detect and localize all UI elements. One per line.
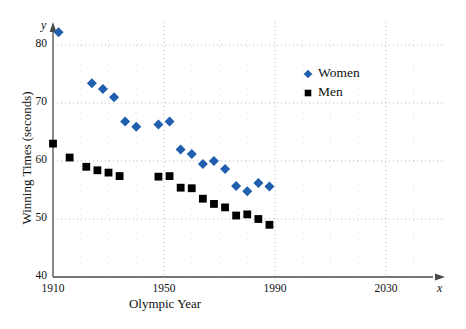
plot-area	[0, 0, 466, 329]
x-tick-label: 1910	[36, 282, 70, 294]
legend-label-women: Women	[318, 65, 360, 81]
data-point-men	[105, 169, 113, 177]
axis-lines	[50, 22, 445, 280]
data-point-men	[266, 221, 274, 229]
data-point-women	[231, 181, 241, 191]
data-point-women	[209, 156, 219, 166]
data-point-women	[109, 92, 119, 102]
x-axis-symbol: x	[437, 281, 442, 296]
data-point-men	[94, 166, 102, 174]
y-tick-label: 70	[27, 95, 47, 107]
data-point-women	[131, 122, 141, 132]
y-tick-label: 80	[27, 37, 47, 49]
data-point-men	[166, 172, 174, 180]
scatter-chart: y x Olympic Year Winning Times (seconds)…	[0, 0, 466, 329]
data-point-men	[199, 195, 207, 203]
data-point-women	[187, 149, 197, 159]
x-tick-label: 1990	[258, 282, 292, 294]
data-point-women	[120, 117, 130, 127]
data-point-men	[66, 154, 74, 162]
x-tick-label: 2030	[369, 282, 403, 294]
legend-label-men: Men	[318, 84, 343, 100]
x-tick-label: 1950	[147, 282, 181, 294]
data-point-men	[82, 163, 90, 171]
data-point-men	[232, 212, 240, 220]
data-point-men	[155, 173, 163, 181]
data-markers	[49, 27, 274, 228]
y-tick-label: 40	[27, 269, 47, 281]
data-point-men	[210, 200, 218, 208]
data-point-women	[153, 119, 163, 129]
data-point-men	[188, 184, 196, 192]
data-point-women	[98, 84, 108, 94]
x-axis-title: Olympic Year	[0, 296, 330, 312]
data-point-men	[221, 204, 229, 212]
legend-marker-square-icon	[305, 90, 312, 97]
y-axis-symbol: y	[41, 18, 46, 33]
data-point-women	[165, 117, 175, 127]
data-point-men	[254, 215, 262, 223]
data-point-men	[116, 172, 124, 180]
data-point-men	[49, 140, 57, 148]
data-point-women	[198, 159, 208, 169]
legend-markers	[304, 70, 313, 97]
y-tick-label: 60	[27, 153, 47, 165]
y-tick-label: 50	[27, 211, 47, 223]
data-point-women	[264, 182, 274, 192]
data-point-women	[242, 186, 252, 196]
data-point-men	[243, 210, 251, 218]
gridlines	[53, 22, 445, 277]
data-point-women	[253, 178, 263, 188]
legend-marker-diamond-icon	[304, 70, 313, 79]
data-point-women	[176, 144, 186, 154]
data-point-women	[220, 164, 230, 174]
data-point-men	[177, 184, 185, 192]
data-point-women	[87, 78, 97, 88]
